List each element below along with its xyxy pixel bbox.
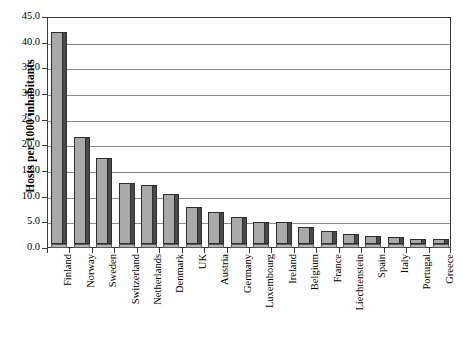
x-axis-tick-label: Germany xyxy=(242,254,253,293)
bar-side-face xyxy=(310,227,314,244)
bar xyxy=(163,194,175,248)
x-axis-tick xyxy=(69,248,70,253)
bar-side-face xyxy=(445,239,449,244)
bar-side-face xyxy=(400,237,404,244)
bar xyxy=(321,231,333,248)
y-axis-tick-label: 5.0 xyxy=(6,216,40,227)
x-axis-tick-label: Netherlands xyxy=(152,254,163,305)
bar-chart: Hosts per 1000 inhabitants 45.040.035.03… xyxy=(0,0,463,338)
bar xyxy=(365,236,377,248)
x-axis-tick-label: Belgium xyxy=(309,254,320,290)
x-axis-tick-label: Italy xyxy=(399,254,410,273)
x-axis-tick xyxy=(137,248,138,253)
x-axis-tick xyxy=(249,248,250,253)
x-axis-tick-label: Finland xyxy=(62,254,73,286)
bar-front-face xyxy=(231,217,243,244)
bar-side-face xyxy=(175,194,179,244)
bar-front-face xyxy=(96,158,108,244)
bar-side-face xyxy=(377,236,381,244)
bar-side-face xyxy=(108,158,112,244)
bar-front-face xyxy=(321,231,333,244)
y-axis-tick-label: 20.0 xyxy=(6,139,40,150)
x-axis-tick xyxy=(450,248,451,253)
y-axis-tick-label: 40.0 xyxy=(6,37,40,48)
bar-front-face xyxy=(208,212,220,244)
x-axis-tick-label: Denmark xyxy=(174,254,185,293)
bar xyxy=(141,185,153,248)
bar xyxy=(74,137,86,248)
bar-front-face xyxy=(276,222,288,244)
x-axis-tick-label: Portugal xyxy=(421,254,432,290)
x-axis-tick xyxy=(294,248,295,253)
x-axis-tick-label: Ireland xyxy=(287,254,298,284)
x-axis-tick-label: Norway xyxy=(85,254,96,288)
bar xyxy=(186,207,198,248)
x-axis-tick-label: Austria xyxy=(219,254,230,285)
bar-side-face xyxy=(86,137,90,244)
bar-side-face xyxy=(198,207,202,244)
bar-side-face xyxy=(153,185,157,244)
bar-front-face xyxy=(410,239,422,244)
bar-front-face xyxy=(433,239,445,244)
x-axis-tick xyxy=(339,248,340,253)
bar xyxy=(433,239,445,248)
bar-front-face xyxy=(186,207,198,244)
x-axis-tick-label: Switzerland xyxy=(130,254,141,304)
x-axis-tick xyxy=(227,248,228,253)
x-axis-tick xyxy=(47,248,48,253)
x-axis-tick-label: Sweden xyxy=(107,254,118,287)
x-axis-tick-label: Greece xyxy=(444,254,455,284)
bar-side-face xyxy=(243,217,247,244)
x-axis-tick-label: France xyxy=(332,254,343,283)
x-axis-tick-labels: FinlandNorwaySwedenSwitzerlandNetherland… xyxy=(47,254,451,338)
x-axis-tick-label: Luxembourg xyxy=(264,254,275,308)
bar xyxy=(253,222,265,248)
bar-front-face xyxy=(119,183,131,244)
bar xyxy=(276,222,288,248)
bars-layer xyxy=(47,17,451,248)
y-axis-tick-label: 0.0 xyxy=(6,242,40,253)
bar-side-face xyxy=(63,32,67,244)
bar-side-face xyxy=(333,231,337,244)
bar-side-face xyxy=(131,183,135,244)
bar-front-face xyxy=(343,234,355,244)
bar-side-face xyxy=(220,212,224,244)
bar-front-face xyxy=(298,227,310,244)
x-axis-tick xyxy=(271,248,272,253)
x-axis-tick-label: Liechtenstein xyxy=(354,254,365,311)
bar-side-face xyxy=(288,222,292,244)
bar xyxy=(208,212,220,248)
bar-front-face xyxy=(74,137,86,244)
x-axis-tick xyxy=(114,248,115,253)
x-axis-tick xyxy=(361,248,362,253)
bar-side-face xyxy=(265,222,269,244)
y-axis-tick-label: 30.0 xyxy=(6,88,40,99)
x-axis-tick-label: UK xyxy=(197,254,208,269)
x-axis-tick xyxy=(384,248,385,253)
bar-front-face xyxy=(141,185,153,244)
bar-front-face xyxy=(51,32,63,244)
bar xyxy=(96,158,108,248)
y-axis-tick-labels: 45.040.035.030.025.020.015.010.05.00.0 xyxy=(0,0,40,338)
bar xyxy=(298,227,310,248)
bar-front-face xyxy=(365,236,377,244)
bar-front-face xyxy=(388,237,400,244)
x-axis-tick xyxy=(429,248,430,253)
x-axis-tick xyxy=(204,248,205,253)
bar xyxy=(119,183,131,248)
x-axis-tick xyxy=(92,248,93,253)
bar xyxy=(388,237,400,248)
x-axis-tick xyxy=(316,248,317,253)
bar-side-face xyxy=(355,234,359,244)
x-axis-tick-label: Spain xyxy=(376,254,387,278)
bar xyxy=(343,234,355,248)
bar-front-face xyxy=(163,194,175,244)
bar-front-face xyxy=(253,222,265,244)
bar xyxy=(51,32,63,248)
y-axis-tick-label: 10.0 xyxy=(6,191,40,202)
x-axis-tick xyxy=(182,248,183,253)
bar xyxy=(410,239,422,248)
y-axis-tick-label: 25.0 xyxy=(6,114,40,125)
x-axis-tick xyxy=(406,248,407,253)
y-axis-tick-label: 35.0 xyxy=(6,62,40,73)
